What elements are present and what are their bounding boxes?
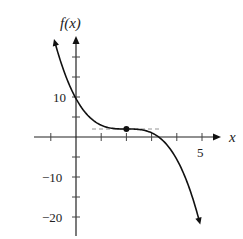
- y-tick-label-neg20: −20: [42, 210, 62, 225]
- x-axis-label: x: [228, 129, 236, 145]
- x-tick-label-5: 5: [197, 145, 204, 160]
- y-axis-label: f(x): [60, 15, 81, 32]
- y-tick-label-10: 10: [53, 90, 66, 105]
- y-axis-arrow-icon: [73, 36, 80, 44]
- function-graph: f(x) x 5 10 −10 −20: [0, 0, 243, 239]
- inflection-point: [123, 126, 129, 132]
- y-tick-label-neg10: −10: [42, 170, 62, 185]
- curve-left-arrow-icon: [53, 39, 59, 47]
- curve-right-arrow-icon: [195, 217, 201, 225]
- x-axis-arrow-icon: [213, 134, 221, 141]
